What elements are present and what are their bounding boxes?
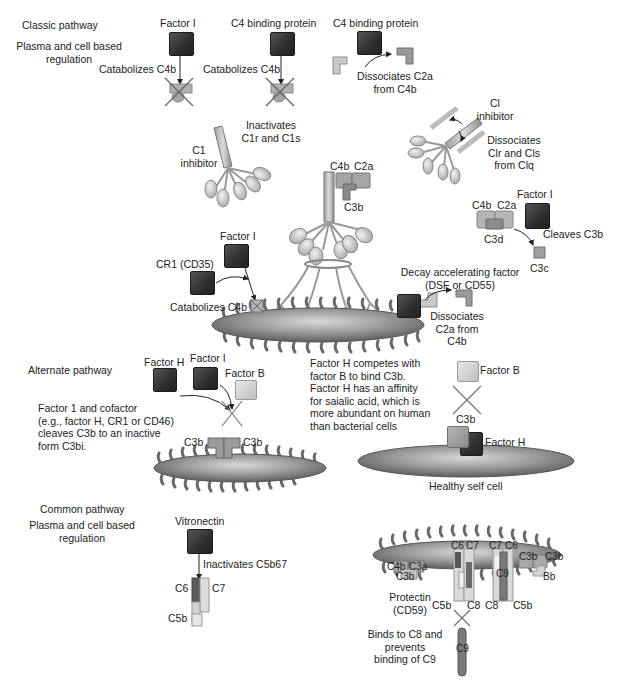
c4b-c2a-c3d-complex-icon: [477, 211, 513, 229]
alternate-pathway-title: Alternate pathway: [28, 364, 112, 377]
c9-label: C9: [456, 643, 469, 656]
c3c-fragment-icon: [534, 247, 545, 258]
factor-i-box: [193, 367, 218, 390]
vitronectin-box: [187, 529, 213, 554]
factor-h-label: Factor H: [485, 436, 525, 449]
healthy-self-cell-label: Healthy self cell: [429, 480, 503, 493]
c7-label: C7: [212, 582, 225, 595]
mac-pore-left-icon: [454, 549, 474, 601]
common-pathway-title: Common pathway: [40, 503, 118, 516]
factor-h-compete-description: Factor H competes withfactor B to bind C…: [310, 357, 430, 432]
x-block-icon: [222, 401, 242, 426]
c2a-fragment-icon: [456, 290, 472, 306]
c1-inhibitor-label: C1inhibitor: [177, 144, 221, 169]
vitronectin-label: Vitronectin: [175, 515, 224, 528]
factor-i-label: Factor I: [160, 17, 196, 30]
factor-i-label: Factor I: [220, 230, 256, 243]
common-subtitle: Plasma and cell basedregulation: [28, 519, 136, 544]
binds-c8-description: Binds to C8 andpreventsbinding of C9: [360, 628, 450, 666]
c3b-label: C3b: [243, 436, 262, 449]
c3b-label: C3b: [519, 551, 537, 564]
c2a-label: C2a: [354, 160, 373, 173]
ci-inhibitor-label: Clinhibitor: [472, 97, 518, 122]
c4-binding-protein-box: [270, 32, 295, 56]
c3b-label: C3b: [456, 413, 475, 426]
catabolizes-c4b-label: Catabolizes C4b: [170, 301, 247, 314]
c3b-label: C3b: [545, 551, 563, 564]
c5b67-complex-icon: [192, 578, 209, 626]
c6-label: C6: [505, 540, 518, 553]
c4b-crossed-icon: [165, 78, 193, 106]
factor-h-box: [153, 368, 177, 392]
c2a-fragment-icon: [397, 48, 413, 64]
catabolizes-c4b-label: Catabolizes C4b: [99, 63, 176, 76]
c4-binding-protein-box: [357, 31, 382, 55]
bb-label: Bb: [543, 571, 555, 584]
c6-label: C6: [175, 582, 188, 595]
classic-pathway-title: Classic pathway: [22, 19, 98, 32]
factor-b-box: [457, 361, 479, 382]
c4b-crossed-icon: [251, 300, 263, 312]
c4b-label: C4b: [330, 160, 349, 173]
c3b-box: [447, 426, 469, 448]
c3b-label: C3b: [344, 201, 363, 214]
cleaves-c3b-label: Cleaves C3b: [543, 228, 603, 241]
c3d-label: C3d: [484, 233, 503, 246]
c9-label: C9: [496, 568, 509, 581]
c4-binding-protein-label: C4 binding protein: [231, 17, 316, 30]
daf-label: Decay accelerating factor(DSF or CD55): [385, 266, 535, 291]
c6-label: C6: [451, 540, 464, 553]
c7-label: C7: [489, 540, 502, 553]
factor-h-label: Factor H: [144, 356, 184, 369]
factor-i-box: [224, 244, 249, 268]
factor-b-box: [235, 380, 257, 400]
inactivates-c5b67-label: Inactivates C5b67: [203, 558, 287, 571]
dissociates-clr-cls-label: DissociatesClr and Clsfrom Clq: [483, 134, 545, 172]
factor-b-label: Factor B: [480, 364, 520, 377]
c5b-label: C5b: [168, 612, 187, 625]
c8-label: C8: [485, 599, 498, 612]
x-block-icon: [454, 610, 470, 626]
c2a-label: C2a: [497, 199, 516, 212]
protectin-label: Protectin(CD59): [380, 591, 440, 616]
c4-binding-protein-label: C4 binding protein: [333, 17, 418, 30]
cr1-cd35-label: CR1 (CD35): [156, 258, 214, 271]
factor-i-label: Factor I: [190, 352, 226, 365]
cr1-box: [190, 271, 215, 295]
c7-label: C7: [466, 540, 479, 553]
c4b-c2a-c3b-complex-icon: [336, 173, 370, 200]
diagram-graphics: [0, 0, 619, 696]
c1-complex-icon: [273, 172, 378, 315]
bacterial-cell-membrane-icon: [154, 445, 326, 491]
factor-b-label: Factor B: [225, 367, 265, 380]
catabolizes-c4b-label: Catabolizes C4b: [203, 63, 280, 76]
classic-subtitle: Plasma and cell basedregulation: [14, 40, 124, 65]
daf-box: [397, 294, 421, 318]
dissociates-c2a-from-c4b-label: DissociatesC2a fromC4b: [426, 310, 488, 348]
alternate-description: Factor 1 and cofactor(e.g., factor H, CR…: [38, 402, 174, 452]
c3b-label: C3b: [184, 436, 203, 449]
dissociates-c2a-label: Dissociates C2afrom C4b: [345, 70, 445, 95]
factor-i-label: Factor I: [517, 188, 553, 201]
factor-i-box: [525, 203, 550, 229]
factor-i-box: [169, 32, 194, 56]
c3b-label: C3b: [396, 571, 414, 584]
x-block-icon: [453, 386, 481, 414]
c4b-label: C4b: [472, 199, 491, 212]
c8-label: C8: [467, 599, 480, 612]
c5b-label: C5b: [513, 599, 532, 612]
c4b-crossed-icon: [266, 78, 294, 106]
inactivates-c1r-c1s-label: InactivatesC1r and C1s: [236, 119, 306, 144]
